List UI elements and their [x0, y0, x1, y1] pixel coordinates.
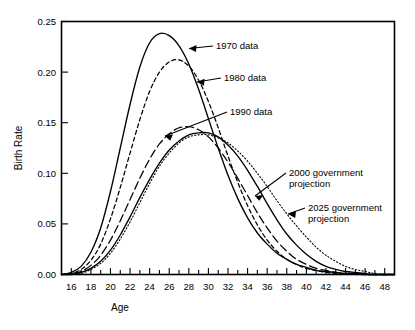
y-tick-3: 0.15: [38, 117, 57, 128]
x-tick-16: 16: [66, 281, 77, 292]
curve-1990-data: [62, 127, 395, 275]
annotation-1970-data: 1970 data: [216, 40, 259, 51]
x-tick-44: 44: [340, 281, 351, 292]
x-tick-34: 34: [242, 281, 253, 292]
x-tick-18: 18: [86, 281, 97, 292]
x-axis-tick-labels: 16 18 20 22 24 26 28 30 32 34 36 38 40 4…: [66, 281, 390, 292]
annotation-1980-data: 1980 data: [224, 72, 267, 83]
y-tick-0: 0.00: [38, 269, 57, 280]
x-tick-46: 46: [360, 281, 371, 292]
y-tick-2: 0.10: [38, 168, 57, 179]
y-axis-ticks: [62, 22, 69, 275]
annotation-1990-data: 1990 data: [230, 106, 273, 117]
annotation-2025-projection-line2: projection: [308, 213, 349, 224]
arrowhead-1970: [189, 45, 197, 52]
x-axis-ticks: [71, 268, 384, 275]
annotation-2000-projection-line1: 2000 government: [289, 167, 363, 178]
y-tick-5: 0.25: [38, 16, 57, 27]
x-tick-26: 26: [164, 281, 175, 292]
x-axis-title: Age: [111, 302, 129, 313]
x-tick-40: 40: [301, 281, 312, 292]
x-tick-48: 48: [379, 281, 390, 292]
x-tick-32: 32: [223, 281, 234, 292]
y-tick-1: 0.05: [38, 218, 57, 229]
x-tick-42: 42: [321, 281, 332, 292]
arrowhead-2000: [255, 195, 263, 201]
annotation-labels: 1970 data 1980 data 1990 data 2000 gover…: [216, 40, 382, 224]
data-curves: [62, 33, 395, 274]
annotation-2000-projection-line2: projection: [289, 178, 330, 189]
y-tick-4: 0.20: [38, 67, 57, 78]
x-tick-24: 24: [144, 281, 155, 292]
x-tick-28: 28: [184, 281, 195, 292]
chart-figure: 0.00 0.05 0.10 0.15 0.20 0.25 Birth Rate…: [0, 0, 415, 330]
x-tick-20: 20: [105, 281, 116, 292]
leader-1990: [165, 112, 227, 136]
x-tick-36: 36: [262, 281, 273, 292]
x-tick-38: 38: [282, 281, 293, 292]
x-tick-30: 30: [203, 281, 214, 292]
birth-rate-line-chart: 0.00 0.05 0.10 0.15 0.20 0.25 Birth Rate…: [0, 0, 415, 330]
plot-frame: [62, 22, 395, 275]
y-axis-title: Birth Rate: [13, 125, 24, 170]
annotation-2025-projection-line1: 2025 government: [308, 202, 382, 213]
x-tick-22: 22: [125, 281, 136, 292]
y-axis-tick-labels: 0.00 0.05 0.10 0.15 0.20 0.25: [38, 16, 57, 280]
